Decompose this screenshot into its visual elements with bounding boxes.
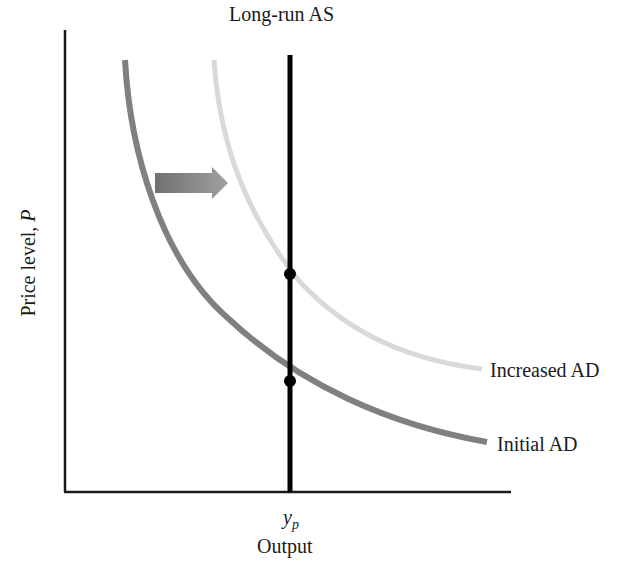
y-axis-label: Price level, P [17, 209, 40, 316]
increased-ad-label: Increased AD [490, 360, 599, 380]
initial-ad-curve [125, 60, 487, 442]
y-axis-label-text: Price level, [17, 222, 39, 317]
equilibrium-point-increased [284, 268, 296, 280]
long-run-as-label: Long-run AS [229, 4, 334, 24]
y-axis-label-var: P [17, 209, 39, 221]
x-axis-label: Output [257, 536, 313, 556]
increased-ad-curve [214, 60, 482, 369]
ad-as-diagram [0, 0, 642, 571]
shift-right-arrow-icon [155, 167, 228, 199]
tick-sub: p [292, 517, 299, 532]
tick-main: y [283, 506, 292, 528]
equilibrium-point-initial [284, 375, 296, 387]
x-tick-yp: yp [283, 507, 299, 532]
initial-ad-label: Initial AD [497, 434, 578, 454]
